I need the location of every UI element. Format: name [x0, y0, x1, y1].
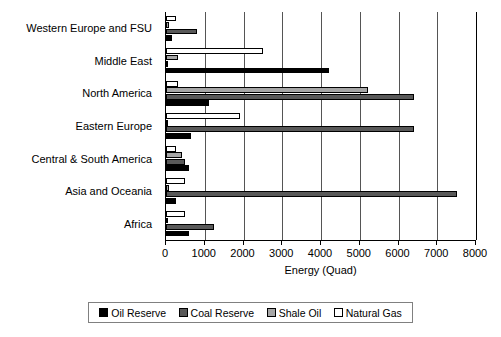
bar [166, 68, 329, 74]
bar-group [166, 12, 476, 45]
bar [166, 152, 182, 158]
x-axis-tick-label: 5000 [347, 247, 371, 260]
x-axis-tick-label: 8000 [463, 247, 487, 260]
bar [166, 133, 191, 139]
bar-group [166, 110, 476, 143]
category-label: Asia and Oceania [65, 185, 152, 197]
x-axis-tick [281, 240, 282, 245]
bar [166, 231, 189, 237]
bar [166, 94, 414, 100]
x-axis-tick [398, 240, 399, 245]
x-axis-tick [320, 240, 321, 245]
category-axis-labels: Western Europe and FSUMiddle EastNorth A… [0, 12, 158, 240]
x-axis-title: Energy (Quad) [165, 263, 476, 277]
bar [166, 100, 209, 106]
category-label: North America [82, 87, 152, 99]
x-axis-tick-label: 2000 [230, 247, 254, 260]
category-label: Central & South America [32, 153, 152, 165]
bar-group [166, 207, 476, 240]
x-axis-tick-label: 4000 [308, 247, 332, 260]
bar [166, 159, 185, 165]
legend-label: Oil Reserve [111, 307, 166, 319]
bar [166, 29, 197, 35]
x-axis-tick [359, 240, 360, 245]
category-label: Middle East [95, 55, 152, 67]
legend-label: Shale Oil [279, 307, 322, 319]
bar [166, 218, 168, 224]
x-axis-tick-label: 3000 [269, 247, 293, 260]
bar [166, 178, 185, 184]
x-axis-tick-label: 6000 [385, 247, 409, 260]
bar [166, 198, 176, 204]
x-axis-tick-label: 7000 [424, 247, 448, 260]
bar [166, 113, 240, 119]
bar [166, 185, 169, 191]
bar [166, 61, 168, 67]
bar-series-container [166, 12, 476, 240]
bar [166, 16, 176, 22]
legend-item: Oil Reserve [99, 307, 166, 319]
bar-group [166, 142, 476, 175]
bar [166, 211, 185, 217]
bar-group [166, 45, 476, 78]
bar [166, 191, 457, 197]
energy-reserves-bar-chart: Western Europe and FSUMiddle EastNorth A… [0, 0, 501, 337]
legend-label: Natural Gas [346, 307, 402, 319]
legend-swatch-icon [99, 308, 108, 317]
legend-item: Coal Reserve [179, 307, 255, 319]
bar [166, 48, 263, 54]
category-label: Eastern Europe [76, 120, 152, 132]
bar [166, 126, 414, 132]
chart-legend: Oil ReserveCoal ReserveShale OilNatural … [88, 302, 413, 323]
x-axis-tick-label: 1000 [192, 247, 216, 260]
category-label: Western Europe and FSU [26, 22, 152, 34]
bar [166, 165, 189, 171]
bar [166, 224, 214, 230]
bar [166, 146, 176, 152]
legend-swatch-icon [179, 308, 188, 317]
bar-group [166, 175, 476, 208]
legend-swatch-icon [267, 308, 276, 317]
bar [166, 87, 368, 93]
legend-label: Coal Reserve [191, 307, 255, 319]
x-axis-tick [204, 240, 205, 245]
x-axis-tick [436, 240, 437, 245]
bar [166, 35, 172, 41]
legend-swatch-icon [334, 308, 343, 317]
bar [166, 81, 178, 87]
legend-item: Natural Gas [334, 307, 402, 319]
plot-area [165, 12, 477, 240]
bar [166, 120, 168, 126]
legend-item: Shale Oil [267, 307, 322, 319]
x-axis-tick [165, 240, 166, 245]
x-axis-tick-label: 0 [162, 247, 168, 260]
bar-group [166, 77, 476, 110]
bar [166, 22, 169, 28]
x-axis-tick [475, 240, 476, 245]
x-axis-tick [243, 240, 244, 245]
bar [166, 55, 178, 61]
category-label: Africa [124, 218, 152, 230]
